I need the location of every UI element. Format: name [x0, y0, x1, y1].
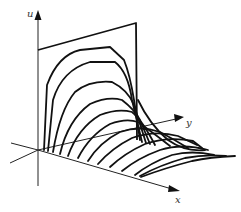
y-axis-label: y	[185, 117, 192, 128]
x-axis-negative	[11, 143, 38, 150]
u-axis-label: u	[27, 8, 33, 19]
axes: u y x	[10, 8, 192, 205]
u-axis-arrowhead-icon	[35, 10, 42, 20]
curve-7	[88, 129, 188, 162]
surface-curves	[44, 47, 235, 177]
surface-diagram: u y x	[0, 0, 241, 212]
back-plane	[38, 23, 137, 140]
x-axis-label: x	[175, 194, 181, 205]
curve-13	[141, 156, 235, 177]
y-axis-arrowhead-icon	[174, 114, 184, 122]
y-axis-negative	[10, 150, 38, 163]
x-axis-arrowhead-icon	[168, 185, 180, 192]
